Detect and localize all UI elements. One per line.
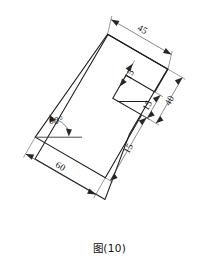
dimension-60-group: 60: [24, 137, 106, 198]
arrowhead-notch-w-start: [120, 79, 127, 87]
dimension-text-45: 45: [136, 23, 150, 37]
arrowhead-br-bottom: [110, 173, 118, 180]
arrowhead-40-top: [175, 78, 183, 85]
dimension-text-40: 40: [163, 94, 177, 108]
ext-line-40-start: [168, 69, 186, 79]
dimension-45-group: 45: [108, 16, 173, 69]
technical-drawing-canvas: 60° 45 40 15: [0, 0, 219, 267]
arrowhead-notch-d-top: [153, 95, 161, 102]
ext-line-60-end: [94, 178, 106, 198]
angle-dimension-text: 60°: [49, 116, 63, 126]
arrowhead-60-start: [26, 154, 35, 160]
arrowhead-45-end: [163, 48, 171, 55]
arrowhead-45-start: [111, 20, 119, 27]
arrowhead-br-top: [139, 118, 147, 125]
angle-arrowhead-lower: [66, 129, 72, 137]
dimension-text-notch-width: 15: [123, 68, 137, 82]
arrowhead-40-bottom: [156, 116, 164, 123]
dimension-text-notch-depth: 15: [141, 99, 155, 113]
angle-reference-group: 60°: [35, 115, 82, 138]
figure-container: 60° 45 40 15: [0, 0, 219, 267]
ext-line-45-start: [108, 16, 112, 34]
dimension-bottom-right-group: 15: [105, 115, 149, 182]
dimension-text-bottom-right: 15: [122, 142, 136, 156]
figure-caption: 图(10): [0, 240, 219, 255]
